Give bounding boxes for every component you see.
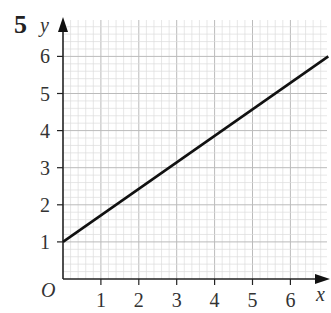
- y-tick-label: 1: [40, 231, 50, 253]
- x-axis-label: x: [315, 283, 325, 305]
- y-axis-label: y: [38, 14, 49, 37]
- origin-label: O: [41, 279, 55, 301]
- y-tick-label: 5: [40, 83, 50, 105]
- x-tick-label: 5: [248, 289, 258, 311]
- x-tick-label: 6: [285, 289, 295, 311]
- y-tick-label: 3: [40, 157, 50, 179]
- x-tick-label: 3: [172, 289, 182, 311]
- y-tick-label: 6: [40, 45, 50, 67]
- line-graph: 123456123456Oxy: [0, 0, 331, 313]
- x-tick-label: 2: [134, 289, 144, 311]
- y-tick-label: 4: [40, 120, 50, 142]
- data-line: [63, 56, 328, 242]
- y-axis-arrow-icon: [58, 17, 68, 32]
- x-tick-label: 4: [210, 289, 220, 311]
- y-tick-label: 2: [40, 194, 50, 216]
- x-tick-label: 1: [96, 289, 106, 311]
